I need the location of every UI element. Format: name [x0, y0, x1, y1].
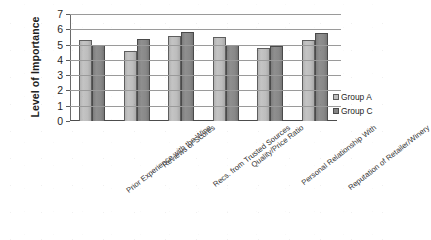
bar-group-a[interactable] [168, 36, 181, 121]
gridline [70, 29, 341, 30]
y-axis-tick-mark [66, 75, 70, 76]
y-axis-tick-mark [66, 121, 70, 122]
bar-group-a[interactable] [302, 40, 315, 121]
y-axis-tick-label: 1 [57, 101, 63, 111]
y-axis-tick-label: 7 [57, 9, 63, 19]
y-axis-tick-mark [66, 90, 70, 91]
bar-group-a[interactable] [79, 40, 92, 121]
chart-title [70, 0, 337, 7]
bar-group-c[interactable] [315, 33, 328, 121]
bar-group-c[interactable] [270, 46, 283, 121]
y-axis-tick-label: 3 [57, 70, 63, 80]
y-axis-tick-mark [66, 45, 70, 46]
gridline [70, 75, 341, 76]
gridline [70, 90, 341, 91]
bar-group-c[interactable] [137, 39, 150, 121]
gridline [70, 45, 341, 46]
y-axis-tick-label: 6 [57, 24, 63, 34]
gridline [70, 60, 341, 61]
bar-group-c[interactable] [92, 45, 105, 121]
y-axis-tick-mark [66, 14, 70, 15]
legend-label: Group C [341, 107, 373, 116]
x-axis-label: Reviews or Scores [160, 123, 216, 170]
y-axis-tick-label: 2 [57, 85, 63, 95]
y-axis-tick-mark [66, 106, 70, 107]
y-axis-tick-label: 5 [57, 40, 63, 50]
legend-item[interactable]: Group A [333, 90, 395, 104]
gridline [70, 14, 341, 15]
y-axis-title: Level of Importance [27, 8, 43, 126]
plot-wrap: 76543210 [70, 14, 337, 121]
bar-group-c[interactable] [226, 45, 239, 121]
y-axis-tick-mark [66, 60, 70, 61]
x-axis-label: Recs. from Trusted Sources [211, 123, 292, 189]
gridline [70, 106, 341, 107]
y-axis-tick-label: 0 [57, 116, 63, 126]
y-axis-tick-mark [66, 29, 70, 30]
y-axis-tick-label: 4 [57, 55, 63, 65]
bar-group-a[interactable] [213, 37, 226, 121]
chart-legend: Group AGroup C [333, 90, 395, 118]
bar-group-a[interactable] [124, 51, 137, 121]
legend-item[interactable]: Group C [333, 104, 395, 118]
legend-label: Group A [341, 93, 372, 102]
